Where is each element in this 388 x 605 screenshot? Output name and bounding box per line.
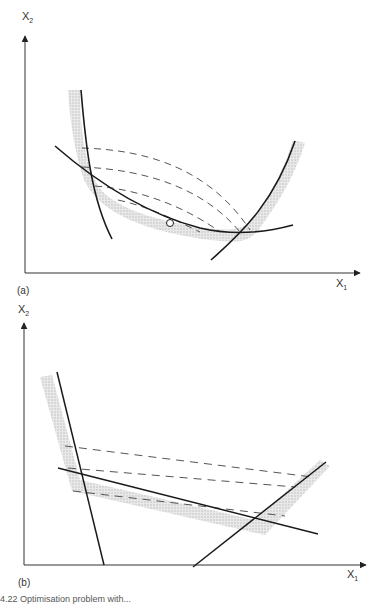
optimum-marker-a <box>167 220 174 227</box>
x-axis-label-b: X1 <box>347 568 358 582</box>
x-axis-label-sub: 1 <box>343 284 347 291</box>
x-axis-label-a: X1 <box>336 277 347 291</box>
panel-label-b: (b) <box>18 577 30 588</box>
diagram-canvas <box>0 0 388 605</box>
panel-a <box>25 36 360 273</box>
y-axis-label-a: X2 <box>22 10 33 24</box>
panel-b <box>24 323 366 567</box>
y-axis-label-sub: 2 <box>29 17 33 24</box>
shaded-band-b <box>40 375 330 535</box>
dashed-contours-a <box>82 148 250 232</box>
y-axis-label-sub: 2 <box>25 310 29 317</box>
right-constraint-curve-a <box>211 141 295 260</box>
figure-caption: 4.22 Optimisation problem with... <box>0 594 131 604</box>
left-constraint-line-b <box>57 372 104 565</box>
panel-label-a: (a) <box>17 285 29 296</box>
x-axis-label-sub: 1 <box>354 575 358 582</box>
y-axis-label-b: X2 <box>18 303 29 317</box>
